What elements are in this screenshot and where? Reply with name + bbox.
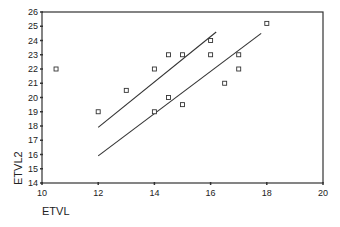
- y-axis-title: ETVL2: [12, 151, 24, 185]
- x-tick-label: 20: [318, 188, 328, 198]
- y-tick-label: 15: [28, 164, 38, 174]
- fit-lines: [98, 32, 261, 156]
- y-tick-label: 23: [28, 50, 38, 60]
- y-tick-label: 22: [28, 64, 38, 74]
- y-axis: 14151617181920212223242526: [28, 7, 43, 188]
- y-tick-label: 19: [28, 107, 38, 117]
- square-marker-point: [96, 110, 100, 114]
- square-marker-point: [124, 88, 128, 92]
- y-tick-label: 18: [28, 121, 38, 131]
- scatter-chart: 14151617181920212223242526 101214161820 …: [0, 0, 340, 227]
- square-marker-point: [152, 67, 156, 71]
- x-tick-label: 14: [149, 188, 159, 198]
- square-marker-point: [181, 103, 185, 107]
- plot-frame: [42, 12, 323, 183]
- y-tick-label: 20: [28, 93, 38, 103]
- square-marker-point: [152, 110, 156, 114]
- square-marker-point: [54, 67, 58, 71]
- data-points: [54, 21, 269, 113]
- y-tick-label: 16: [28, 150, 38, 160]
- y-tick-label: 21: [28, 78, 38, 88]
- x-tick-label: 10: [37, 188, 47, 198]
- x-tick-label: 18: [262, 188, 272, 198]
- y-tick-label: 25: [28, 21, 38, 31]
- square-marker-point: [237, 53, 241, 57]
- y-tick-label: 14: [28, 178, 38, 188]
- square-marker-point: [181, 53, 185, 57]
- square-marker-point: [237, 67, 241, 71]
- x-axis: 101214161820: [37, 182, 328, 198]
- x-tick-label: 12: [93, 188, 103, 198]
- upper-line: [98, 32, 216, 127]
- y-tick-label: 17: [28, 135, 38, 145]
- square-marker-point: [209, 53, 213, 57]
- square-marker-point: [265, 21, 269, 25]
- square-marker-point: [166, 53, 170, 57]
- x-tick-label: 16: [206, 188, 216, 198]
- y-tick-label: 26: [28, 7, 38, 17]
- square-marker-point: [223, 81, 227, 85]
- y-tick-label: 24: [28, 36, 38, 46]
- lower-line: [98, 33, 261, 156]
- x-axis-title: ETVL: [42, 205, 70, 217]
- square-marker-point: [166, 96, 170, 100]
- square-marker-point: [209, 39, 213, 43]
